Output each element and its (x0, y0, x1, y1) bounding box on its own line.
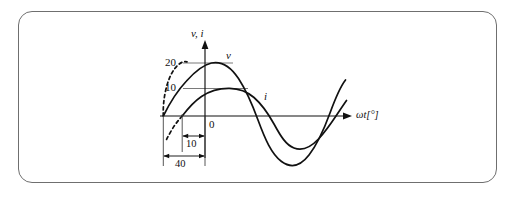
curve-label-voltage: v (226, 50, 231, 61)
dim-arrow-10-right (199, 134, 205, 138)
plot-canvas (0, 0, 513, 197)
dim-arrow-40-right (199, 154, 205, 158)
x-axis-label: ωt[°] (356, 110, 379, 121)
dim-arrow-40-left (163, 154, 169, 158)
origin-label: 0 (209, 119, 215, 130)
y-tick-label-20: 20 (165, 57, 176, 68)
dimension-label-40: 40 (175, 159, 186, 170)
x-axis-arrowhead (343, 113, 352, 120)
y-tick-label-10: 10 (165, 82, 176, 93)
curve-current-dashed-lead (166, 116, 182, 141)
curve-label-current: i (264, 91, 267, 102)
y-axis-label: v, i (191, 28, 204, 39)
curve-voltage (163, 63, 345, 166)
y-axis-arrowhead (202, 40, 209, 49)
dimension-label-10: 10 (186, 139, 197, 150)
